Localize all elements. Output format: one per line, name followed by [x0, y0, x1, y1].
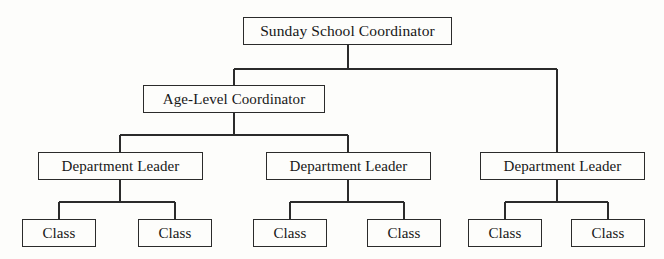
- node-sunday-school-coordinator: Sunday School Coordinator: [243, 17, 452, 45]
- node-class-6: Class: [571, 219, 645, 247]
- node-label: Class: [591, 225, 624, 242]
- org-chart: Sunday School Coordinator Age-Level Coor…: [0, 0, 664, 259]
- node-department-leader-2: Department Leader: [266, 152, 431, 180]
- node-label: Class: [42, 225, 75, 242]
- node-label: Age-Level Coordinator: [163, 91, 305, 108]
- node-class-2: Class: [138, 219, 212, 247]
- node-label: Sunday School Coordinator: [260, 22, 435, 40]
- node-class-3: Class: [253, 219, 327, 247]
- node-class-4: Class: [367, 219, 441, 247]
- node-label: Class: [488, 225, 521, 242]
- node-label: Class: [387, 225, 420, 242]
- node-label: Class: [158, 225, 191, 242]
- node-label: Department Leader: [504, 158, 622, 175]
- node-department-leader-1: Department Leader: [38, 152, 203, 180]
- node-class-1: Class: [22, 219, 96, 247]
- node-age-level-coordinator: Age-Level Coordinator: [143, 85, 325, 113]
- node-department-leader-3: Department Leader: [480, 152, 645, 180]
- node-class-5: Class: [468, 219, 542, 247]
- node-label: Department Leader: [62, 158, 180, 175]
- node-label: Class: [273, 225, 306, 242]
- node-label: Department Leader: [290, 158, 408, 175]
